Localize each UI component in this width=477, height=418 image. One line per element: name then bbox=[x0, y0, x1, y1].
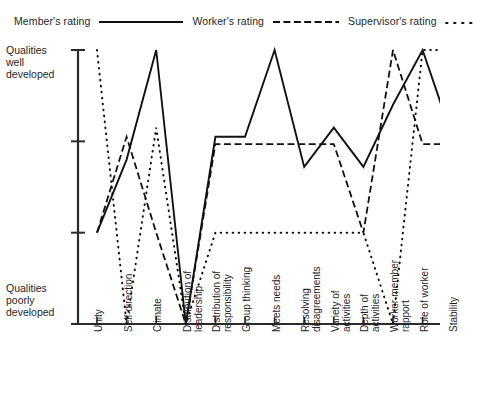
x-axis-label-8-line-1: activities bbox=[341, 291, 352, 333]
x-axis-label-10: Worker-memberrapport bbox=[389, 260, 411, 332]
x-axis-label-7: Resolvingdisagreements bbox=[300, 266, 322, 332]
x-axis-label-0: Unity bbox=[93, 309, 104, 332]
x-axis-label-3: Distribution ofleadership bbox=[182, 271, 204, 332]
x-axis-label-0-line-0: Unity bbox=[93, 309, 104, 332]
x-axis-label-6-line-0: Meets needs bbox=[271, 275, 282, 332]
x-axis-label-10-line-1: rapport bbox=[400, 260, 411, 332]
x-axis-label-9: Depth ofactivities bbox=[359, 294, 381, 332]
x-axis-label-1-line-0: Self-direction bbox=[123, 274, 134, 332]
x-axis-label-6: Meets needs bbox=[271, 275, 282, 332]
x-axis-label-1: Self-direction bbox=[123, 274, 134, 332]
x-axis-label-10-line-0: Worker-member bbox=[389, 260, 400, 332]
x-axis-label-11-line-0: Role of worker bbox=[419, 268, 430, 332]
x-axis-label-8: Variety ofactivities bbox=[330, 291, 352, 333]
x-axis-label-3-line-0: Distribution of bbox=[182, 271, 193, 332]
x-axis-label-9-line-0: Depth of bbox=[359, 294, 370, 332]
x-axis-label-11: Role of worker bbox=[419, 268, 430, 332]
legend-key-dotted-icon bbox=[444, 17, 477, 25]
x-axis-label-12-line-0: Stability bbox=[448, 297, 459, 332]
x-axis-label-4: Distribution ofresponsibility bbox=[211, 271, 233, 332]
x-axis-label-2-line-0: Climate bbox=[152, 298, 163, 332]
x-axis-label-5-line-0: Group thinking bbox=[241, 267, 252, 332]
x-axis-label-4-line-1: responsibility bbox=[222, 271, 233, 332]
x-axis-label-7-line-1: disagreements bbox=[311, 266, 322, 332]
x-axis-label-2: Climate bbox=[152, 298, 163, 332]
x-axis-label-8-line-0: Variety of bbox=[330, 291, 341, 333]
x-axis-label-9-line-1: activities bbox=[370, 294, 381, 332]
x-axis-label-3-line-1: leadership bbox=[193, 271, 204, 332]
x-axis-label-5: Group thinking bbox=[241, 267, 252, 332]
x-axis-label-12: Stability bbox=[448, 297, 459, 332]
x-axis-label-7-line-0: Resolving bbox=[300, 288, 311, 332]
x-axis-label-4-line-0: Distribution of bbox=[211, 271, 222, 332]
